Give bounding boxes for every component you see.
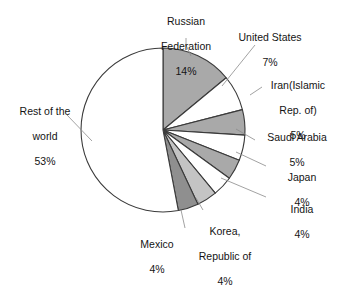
pie-label-name-2: Republic of: [186, 250, 264, 263]
pie-label-name-2: Federation: [140, 40, 232, 53]
pie-label-name-2: world: [4, 130, 86, 143]
pie-label-value: 4%: [268, 228, 336, 241]
pie-label-name: Saudi Arabia: [256, 131, 338, 144]
pie-label-mexico: Mexico 4%: [126, 225, 188, 288]
pie-label-korea: Korea, Republic of 4%: [186, 212, 264, 289]
pie-label-value: 14%: [140, 65, 232, 78]
pie-label-value: 4%: [126, 263, 188, 276]
pie-label-name: Japan: [268, 171, 336, 184]
pie-label-name: Rest of the: [4, 105, 86, 118]
leader-line-india: [221, 178, 266, 197]
pie-label-value: 4%: [186, 275, 264, 288]
pie-label-name: United States: [222, 31, 318, 44]
pie-label-name: India: [268, 203, 336, 216]
pie-label-name-2: Rep. of): [258, 104, 338, 117]
pie-label-value: 53%: [4, 155, 86, 168]
pie-label-name: Russian: [140, 15, 232, 28]
pie-label-name: Mexico: [126, 238, 188, 251]
pie-label-name: Korea,: [186, 225, 264, 238]
pie-label-india: India 4%: [268, 190, 336, 253]
pie-label-russian-federation: Russian Federation 14%: [140, 2, 232, 90]
pie-label-name: Iran(Islamic: [258, 79, 338, 92]
pie-label-rest-of-the-world: Rest of the world 53%: [4, 92, 86, 180]
